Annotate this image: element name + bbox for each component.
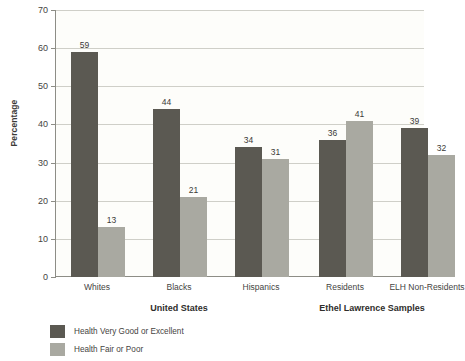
y-axis-tick-label: 30 [38,158,48,168]
x-axis-group-label: United States [150,303,208,313]
gridline [56,10,424,11]
bar-value-label: 34 [244,135,253,145]
bar-value-label: 21 [189,185,198,195]
bar: 44 [153,109,180,277]
legend-label: Health Very Good or Excellent [74,327,184,336]
bar: 21 [180,197,207,277]
y-axis-tick-label: 70 [38,5,48,15]
y-axis-tick-mark [51,48,56,49]
bar-value-label: 36 [328,128,337,138]
y-axis-tick-mark [51,277,56,278]
x-axis-category-label: Whites [84,282,110,292]
bar: 34 [235,147,262,277]
bar: 32 [428,155,455,277]
y-axis-tick-mark [51,201,56,202]
legend-item-health-very-good-or-excellent: Health Very Good or Excellent [50,322,184,340]
y-axis-tick-mark [51,163,56,164]
y-axis-tick-label: 10 [38,234,48,244]
legend-swatch-icon [50,343,65,356]
plot-area: 01020304050607059134421343136413932 [55,10,424,277]
gridline [56,86,424,87]
bar-value-label: 59 [80,40,89,50]
bar-value-label: 32 [437,143,446,153]
legend-swatch-icon [50,325,65,338]
y-axis-title: Percentage [9,83,19,163]
y-axis-tick-label: 0 [43,272,48,282]
bar: 41 [346,121,373,277]
bar-value-label: 44 [162,97,171,107]
x-axis-group-label: Ethel Lawrence Samples [319,303,425,313]
bar: 59 [71,52,98,277]
legend-label: Health Fair or Poor [74,345,143,354]
bar-value-label: 39 [410,116,419,126]
x-axis-category-label: Residents [326,282,364,292]
y-axis-tick-mark [51,10,56,11]
y-axis-tick-mark [51,124,56,125]
x-axis-category-label: Hispanics [243,282,280,292]
y-axis-tick-label: 50 [38,81,48,91]
y-axis-tick-label: 40 [38,119,48,129]
bar: 39 [401,128,428,277]
y-axis-tick-label: 20 [38,196,48,206]
legend-item-health-fair-or-poor: Health Fair or Poor [50,340,184,358]
bar: 13 [98,227,125,277]
chart-legend: Health Very Good or Excellent Health Fai… [50,322,184,358]
y-axis-tick-label: 60 [38,43,48,53]
bar-value-label: 41 [355,109,364,119]
y-axis-tick-mark [51,86,56,87]
bar: 31 [262,159,289,277]
bar: 36 [319,140,346,277]
gridline [56,48,424,49]
x-axis-category-label: ELH Non-Residents [389,282,464,292]
y-axis-tick-mark [51,239,56,240]
bar-value-label: 31 [271,147,280,157]
bar-value-label: 13 [107,215,116,225]
x-axis-category-label: Blacks [166,282,191,292]
